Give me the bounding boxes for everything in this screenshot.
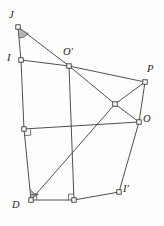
point-label-D: D: [12, 200, 20, 211]
segment-O-Iprime: [119, 122, 139, 192]
segment-B-Iprime: [74, 192, 119, 200]
point-label-P: P: [147, 64, 153, 75]
geometry-canvas: [0, 0, 164, 226]
segment-Oprime-B: [69, 66, 74, 200]
segment-group: [18, 27, 145, 200]
segment-P-X: [115, 82, 145, 104]
vertex-D: [29, 198, 33, 202]
vertex-I: [19, 58, 23, 62]
vertex-P: [143, 80, 147, 84]
point-label-Iprime: I': [123, 184, 129, 195]
segment-Oprime-P: [69, 66, 145, 82]
segment-I-A: [21, 60, 24, 129]
point-label-J: J: [9, 10, 14, 21]
point-label-O: O: [143, 114, 151, 125]
point-label-I: I: [7, 53, 11, 64]
vertex-J: [16, 25, 20, 29]
vertex-B: [72, 198, 76, 202]
point-label-Oprime: O': [63, 47, 73, 58]
vertex-A: [22, 127, 26, 131]
vertex-Iprime: [117, 190, 121, 194]
vertex-O: [137, 120, 141, 124]
geometry-figure: J I O' P O I' D: [0, 0, 164, 226]
segment-X-D: [31, 104, 115, 200]
vertex-X: [113, 102, 117, 106]
segment-Oprime-X: [69, 66, 115, 104]
vertex-Oprime: [67, 64, 71, 68]
segment-A-O: [24, 122, 139, 129]
segment-X-O: [115, 104, 139, 122]
